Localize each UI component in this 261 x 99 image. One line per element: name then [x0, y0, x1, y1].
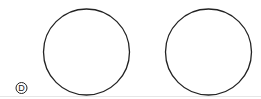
option-label-d: D — [16, 83, 27, 94]
diagram-canvas: D — [0, 0, 261, 99]
right-circle — [166, 9, 252, 95]
left-circle — [44, 9, 130, 95]
label-text: D — [18, 83, 25, 93]
